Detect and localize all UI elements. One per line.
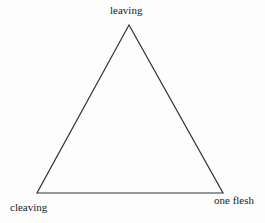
vertex-label-top: leaving xyxy=(110,4,142,16)
vertex-label-bottom-left: cleaving xyxy=(10,201,47,213)
diagram-canvas: leaving cleaving one flesh xyxy=(0,0,265,223)
vertex-label-bottom-right: one flesh xyxy=(214,194,254,206)
triangle-shape xyxy=(0,0,265,223)
